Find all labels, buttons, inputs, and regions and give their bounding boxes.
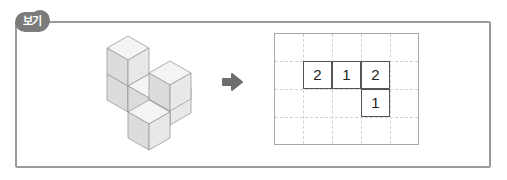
badge-label: 보기 bbox=[15, 12, 49, 32]
grid-line bbox=[275, 89, 418, 90]
cube-stack-figure bbox=[100, 32, 220, 152]
grid-cell: 1 bbox=[361, 89, 390, 117]
grid-cell: 2 bbox=[361, 61, 390, 89]
right-arrow-icon bbox=[221, 72, 245, 92]
top-view-grid: 2 1 2 1 bbox=[274, 33, 419, 145]
example-badge: 보기 bbox=[15, 12, 49, 32]
grid-line bbox=[275, 117, 418, 118]
grid-cell: 1 bbox=[332, 61, 361, 89]
grid-cell: 2 bbox=[303, 61, 332, 89]
example-frame bbox=[15, 21, 491, 168]
